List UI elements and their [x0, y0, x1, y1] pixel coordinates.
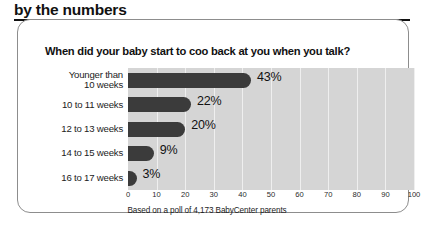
- section-heading: by the numbers: [14, 0, 410, 21]
- bar-value-label: 9%: [160, 143, 178, 157]
- bar-row: 9%: [128, 142, 414, 166]
- category-label: 12 to 13 weeks: [26, 124, 123, 135]
- x-tick-label: 80: [353, 190, 361, 199]
- x-tick-label: 100: [408, 190, 421, 199]
- bar-row: 43%: [128, 69, 414, 93]
- bar: [128, 146, 154, 161]
- category-label: 16 to 17 weeks: [26, 173, 123, 184]
- x-tick-label: 70: [324, 190, 332, 199]
- category-label: 10 to 11 weeks: [26, 100, 123, 111]
- bar: [128, 171, 137, 186]
- x-tick-label: 20: [181, 190, 189, 199]
- gridline: [414, 68, 415, 190]
- bar: [128, 97, 191, 112]
- bar-row: 20%: [128, 117, 414, 141]
- bar-value-label: 43%: [257, 70, 281, 84]
- chart-source-note: Based on a poll of 4,173 BabyCenter pare…: [18, 206, 410, 215]
- x-tick-label: 10: [152, 190, 160, 199]
- x-tick-label: 60: [295, 190, 303, 199]
- bar-series: 43%22%20%9%3%: [128, 68, 414, 190]
- bar-value-label: 22%: [197, 94, 221, 108]
- x-axis-tick-labels: 0102030405060708090100: [128, 190, 414, 204]
- category-axis-labels: Younger than 10 weeks10 to 11 weeks12 to…: [26, 68, 123, 190]
- x-tick-label: 40: [238, 190, 246, 199]
- chart-question: When did your baby start to coo back at …: [45, 45, 415, 57]
- bar-value-label: 3%: [143, 167, 161, 181]
- bar: [128, 122, 185, 137]
- category-label: Younger than 10 weeks: [26, 70, 123, 92]
- x-tick-label: 0: [126, 190, 130, 199]
- x-tick-label: 90: [381, 190, 389, 199]
- bar: [128, 73, 251, 88]
- x-tick-label: 30: [210, 190, 218, 199]
- category-label: 14 to 15 weeks: [26, 148, 123, 159]
- bar-row: 3%: [128, 166, 414, 190]
- x-tick-label: 50: [267, 190, 275, 199]
- bar-value-label: 20%: [191, 118, 215, 132]
- bar-row: 22%: [128, 93, 414, 117]
- chart-card: When did your baby start to coo back at …: [17, 19, 409, 213]
